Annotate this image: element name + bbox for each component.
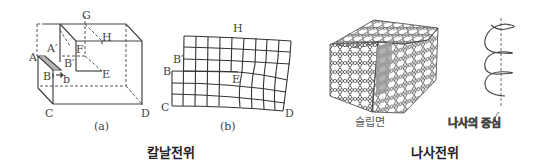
label-C: C xyxy=(161,101,169,114)
dislocation-figure: G H A A′ F B′ B b E C D (a) xyxy=(0,0,544,166)
label-H: H xyxy=(102,31,112,44)
label-G: G xyxy=(82,9,91,22)
screw-dislocation-crystal-lattice: 슬립면 xyxy=(330,20,438,129)
label-F: F xyxy=(76,43,84,56)
label-E: E xyxy=(232,73,240,86)
label-B-prime: B′ xyxy=(173,53,184,66)
sublabel-a: (a) xyxy=(94,120,109,133)
label-B: B xyxy=(43,70,51,83)
label-b: b xyxy=(63,73,70,86)
label-B: B xyxy=(163,65,171,78)
label-B-prime: B′ xyxy=(64,57,75,70)
screw-helix-diagram: 나사의 중심 xyxy=(448,18,514,130)
label-A: A xyxy=(28,51,38,64)
screw-center-label: 나사의 중심 xyxy=(448,117,502,130)
label-A-prime: A′ xyxy=(46,42,58,55)
label-E: E xyxy=(102,68,110,81)
label-H: H xyxy=(233,22,243,35)
label-D: D xyxy=(285,107,294,120)
label-D: D xyxy=(141,107,150,120)
slip-plane-label: 슬립면 xyxy=(355,116,385,129)
label-C: C xyxy=(45,107,53,120)
edge-dislocation-caption: 칼날전위 xyxy=(147,142,195,161)
sublabel-b: (b) xyxy=(220,120,236,133)
screw-dislocation-caption: 나사전위 xyxy=(411,142,459,161)
edge-dislocation-box-diagram xyxy=(37,16,142,105)
